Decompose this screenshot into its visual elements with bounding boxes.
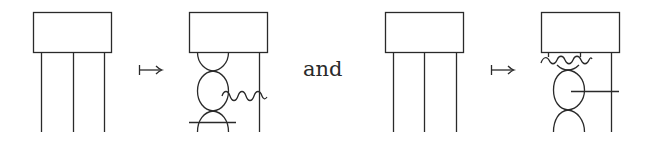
oval bbox=[554, 70, 585, 110]
maps-to-arrow-2 bbox=[492, 65, 515, 75]
diagram-lhs-1 bbox=[34, 13, 112, 133]
diagram-rhs-2 bbox=[541, 13, 620, 133]
wavy-wire bbox=[541, 56, 592, 64]
wavy-wire bbox=[222, 92, 267, 101]
conjunction-label: and bbox=[303, 57, 343, 81]
pinch bbox=[557, 65, 579, 70]
cup bbox=[198, 53, 229, 72]
box bbox=[386, 13, 464, 53]
cap bbox=[198, 111, 229, 132]
oval bbox=[198, 71, 229, 111]
box bbox=[542, 13, 620, 53]
box bbox=[34, 13, 112, 53]
diagram-lhs-2 bbox=[386, 13, 464, 133]
cap bbox=[554, 110, 585, 132]
box bbox=[190, 13, 268, 53]
diagram-rhs-1 bbox=[189, 13, 268, 133]
maps-to-arrow-1 bbox=[140, 65, 163, 75]
